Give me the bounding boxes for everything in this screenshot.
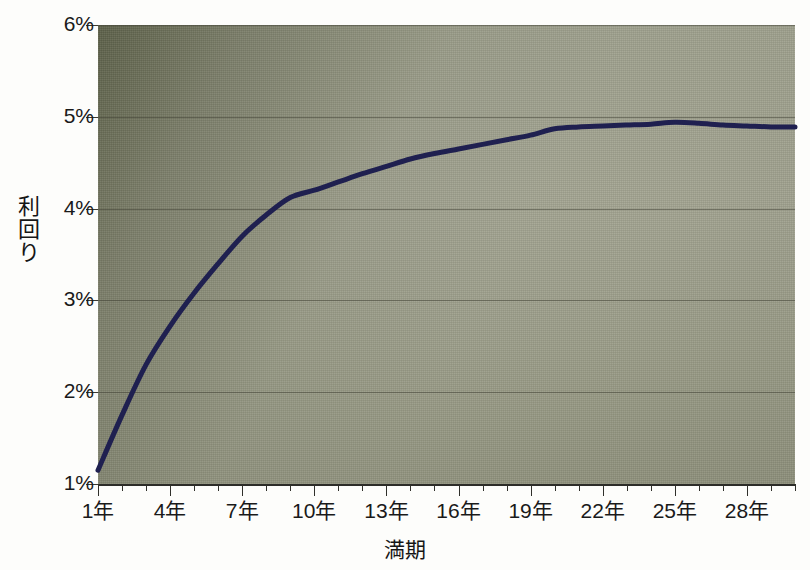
x-tick-minor bbox=[555, 485, 556, 491]
x-tick-minor bbox=[338, 485, 339, 491]
gridline-y bbox=[98, 117, 795, 118]
x-tick-minor bbox=[627, 485, 628, 491]
x-tick-minor bbox=[194, 485, 195, 491]
y-tick-label: 1% bbox=[34, 471, 94, 495]
x-axis-title: 満期 bbox=[0, 533, 810, 563]
x-tick-label: 25年 bbox=[643, 494, 707, 524]
x-tick-minor bbox=[507, 485, 508, 491]
x-tick-minor bbox=[362, 485, 363, 491]
y-axis-title-char: り bbox=[14, 242, 44, 265]
x-tick-minor bbox=[651, 485, 652, 491]
x-tick-minor bbox=[771, 485, 772, 491]
y-tick-label: 3% bbox=[34, 287, 94, 311]
y-tick-label: 2% bbox=[34, 379, 94, 403]
x-tick-label: 13年 bbox=[354, 494, 418, 524]
x-axis-line bbox=[98, 484, 796, 486]
x-tick-minor bbox=[146, 485, 147, 491]
x-tick-label: 22年 bbox=[571, 494, 635, 524]
gridline-y bbox=[98, 392, 795, 393]
x-tick-label: 10年 bbox=[282, 494, 346, 524]
x-tick-minor bbox=[266, 485, 267, 491]
x-tick-minor bbox=[483, 485, 484, 491]
x-tick-minor bbox=[218, 485, 219, 491]
x-tick-minor bbox=[579, 485, 580, 491]
x-tick-minor bbox=[723, 485, 724, 491]
y-tick-label: 5% bbox=[34, 104, 94, 128]
gridline-y bbox=[98, 300, 795, 301]
y-axis-title-char: 回 bbox=[14, 219, 44, 242]
x-tick-minor bbox=[410, 485, 411, 491]
x-tick-label: 7年 bbox=[210, 494, 274, 524]
x-tick-minor bbox=[290, 485, 291, 491]
gridline-y bbox=[98, 25, 795, 26]
x-tick-label: 28年 bbox=[715, 494, 779, 524]
y-axis-title-char: 利 bbox=[14, 196, 44, 219]
y-axis-title: 利回り bbox=[14, 196, 44, 265]
x-tick-minor bbox=[795, 485, 796, 491]
gridline-y bbox=[98, 209, 795, 210]
x-tick-minor bbox=[122, 485, 123, 491]
x-tick-label: 16年 bbox=[427, 494, 491, 524]
x-tick-minor bbox=[699, 485, 700, 491]
x-tick-label: 1年 bbox=[66, 494, 130, 524]
plot-area bbox=[98, 25, 795, 484]
x-tick-label: 4年 bbox=[138, 494, 202, 524]
plot-texture bbox=[98, 25, 795, 484]
clipped-header-text bbox=[40, 0, 460, 2]
yield-curve-figure: 1%2%3%4%5%6% 1年4年7年10年13年16年19年22年25年28年… bbox=[0, 0, 810, 570]
x-tick-minor bbox=[434, 485, 435, 491]
x-tick-label: 19年 bbox=[499, 494, 563, 524]
y-tick-label: 6% bbox=[34, 12, 94, 36]
